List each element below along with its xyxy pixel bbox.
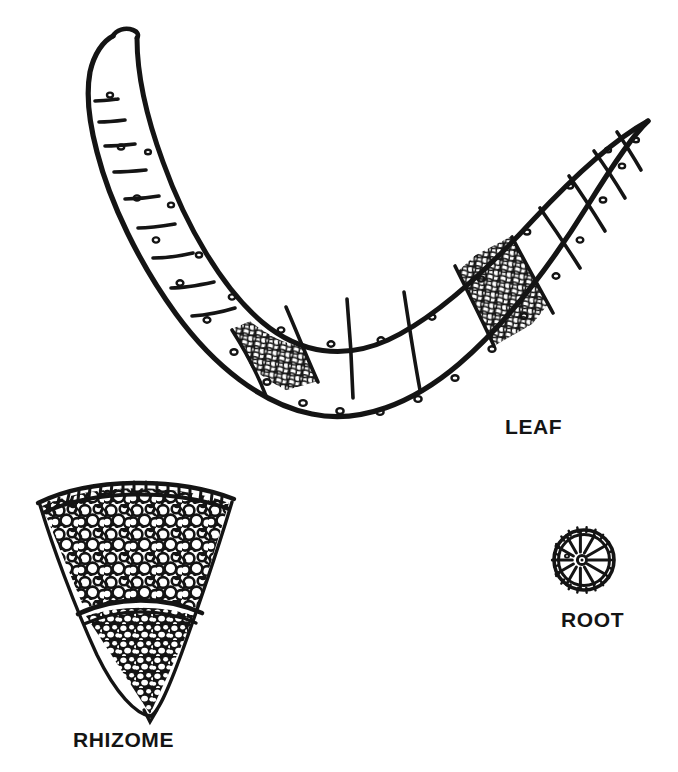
label-root: ROOT (561, 608, 624, 632)
root-stele-core (581, 559, 584, 562)
label-leaf: LEAF (505, 415, 562, 439)
label-rhizome: RHIZOME (73, 728, 174, 752)
figure-root: LEAF RHIZOME ROOT (0, 0, 678, 772)
root-cross-section (552, 527, 615, 593)
anatomy-figure-canvas (0, 0, 678, 772)
